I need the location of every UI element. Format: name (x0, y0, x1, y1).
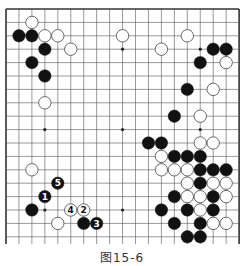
black-stone (194, 231, 206, 243)
black-stone (78, 217, 90, 229)
white-stone (220, 56, 232, 68)
black-stone (168, 190, 180, 202)
black-stone: 1 (39, 190, 51, 202)
go-board: 51423 (0, 0, 244, 246)
white-stone (181, 177, 193, 189)
white-stone (207, 137, 219, 149)
black-stone (207, 164, 219, 176)
black-stone (181, 231, 193, 243)
white-stone (116, 30, 128, 42)
black-stone: 5 (52, 177, 64, 189)
star-point (121, 48, 124, 51)
figure-caption: 图15-6 (0, 248, 244, 265)
star-point (199, 128, 202, 131)
white-stone (181, 164, 193, 176)
star-point (43, 208, 46, 211)
white-stone (26, 164, 38, 176)
move-number: 5 (55, 178, 61, 188)
white-stone (155, 164, 167, 176)
black-stone (26, 56, 38, 68)
black-stone (181, 150, 193, 162)
white-stone (39, 30, 51, 42)
move-number: 2 (81, 205, 87, 215)
star-point (199, 48, 202, 51)
white-stone (52, 217, 64, 229)
white-stone (194, 204, 206, 216)
black-stone (181, 204, 193, 216)
white-stone (207, 177, 219, 189)
black-stone (168, 150, 180, 162)
white-stone (155, 150, 167, 162)
black-stone: 3 (90, 217, 102, 229)
white-stone (207, 83, 219, 95)
black-stone (155, 204, 167, 216)
black-stone (207, 190, 219, 202)
white-stone (220, 217, 232, 229)
star-point (121, 128, 124, 131)
white-stone (207, 217, 219, 229)
black-stone (26, 204, 38, 216)
black-stone (13, 30, 25, 42)
white-stone (194, 190, 206, 202)
white-stone (65, 43, 77, 55)
black-stone (168, 217, 180, 229)
star-point (43, 128, 46, 131)
white-stone (194, 110, 206, 122)
star-point (121, 208, 124, 211)
black-stone (194, 177, 206, 189)
white-stone (168, 164, 180, 176)
black-stone (168, 110, 180, 122)
black-stone (194, 56, 206, 68)
move-number: 4 (68, 205, 74, 215)
black-stone (194, 217, 206, 229)
white-stone (181, 190, 193, 202)
black-stone (194, 150, 206, 162)
white-stone (155, 43, 167, 55)
white-stone (39, 97, 51, 109)
black-stone (220, 164, 232, 176)
white-stone (194, 137, 206, 149)
white-stone: 2 (78, 204, 90, 216)
white-stone (26, 16, 38, 28)
black-stone (207, 204, 219, 216)
black-stone (194, 164, 206, 176)
white-stone (220, 177, 232, 189)
black-stone (155, 137, 167, 149)
black-stone (26, 30, 38, 42)
black-stone (39, 70, 51, 82)
black-stone (181, 83, 193, 95)
white-stone (52, 30, 64, 42)
move-number: 1 (42, 192, 48, 202)
white-stone: 4 (65, 204, 77, 216)
black-stone (207, 43, 219, 55)
black-stone (39, 43, 51, 55)
white-stone (220, 190, 232, 202)
black-stone (220, 43, 232, 55)
move-number: 3 (94, 219, 100, 229)
white-stone (181, 30, 193, 42)
black-stone (142, 137, 154, 149)
